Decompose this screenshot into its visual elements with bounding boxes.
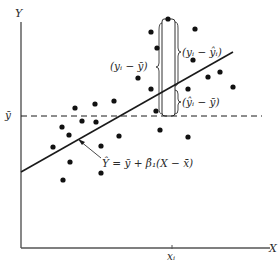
data-point <box>98 143 103 148</box>
explained-deviation-label: (ŷᵢ − ȳ) <box>182 96 220 108</box>
mean-y-label: ȳ <box>4 109 12 121</box>
data-point <box>185 134 190 139</box>
total-deviation-bracket <box>162 19 175 116</box>
data-point <box>185 86 190 91</box>
data-point <box>217 69 222 74</box>
total-brace <box>156 23 162 114</box>
data-point <box>192 26 197 31</box>
data-point <box>230 84 235 89</box>
data-point <box>111 98 116 103</box>
data-point <box>190 57 195 62</box>
regression-equation: Ŷ = ȳ + β̂₁(X − x̄) <box>102 156 193 169</box>
data-point <box>148 86 153 91</box>
total-deviation-label: (yᵢ − ȳ) <box>110 60 148 72</box>
data-point <box>50 144 55 149</box>
data-point <box>165 16 170 21</box>
data-point <box>79 118 84 123</box>
data-point <box>67 159 72 164</box>
data-point <box>93 119 98 124</box>
regression-decomposition-diagram: Y X xᵢ ȳ Ŷ = ȳ + β̂₁(X − x̄) (yᵢ − ȳ) (y… <box>0 0 278 266</box>
unexplained-brace <box>175 22 181 86</box>
data-point <box>66 132 71 137</box>
data-point <box>59 124 64 129</box>
data-point <box>157 127 162 132</box>
data-point <box>72 105 77 110</box>
unexplained-deviation-label: (yᵢ − ŷᵢ) <box>182 46 222 58</box>
data-point <box>60 177 65 182</box>
data-point <box>92 101 97 106</box>
data-point <box>205 74 210 79</box>
x-axis-label: X <box>268 242 278 255</box>
xi-label: xᵢ <box>167 250 175 262</box>
data-point <box>154 45 159 50</box>
data-point <box>98 170 103 175</box>
data-point <box>135 75 140 80</box>
explained-brace <box>175 90 181 114</box>
y-axis-label: Y <box>15 7 24 20</box>
data-point <box>116 133 121 138</box>
data-point <box>153 108 158 113</box>
data-point <box>148 29 153 34</box>
